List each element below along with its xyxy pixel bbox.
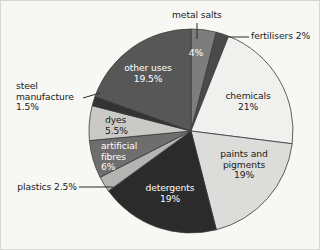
dyes-value-text: 5.5% (105, 126, 153, 137)
steel-line1-text: steel (16, 81, 92, 92)
label-metal-salts-value: 4% (184, 48, 208, 59)
label-metal-salts-name: metal salts (172, 10, 222, 21)
metal-salts-value-text: 4% (184, 48, 208, 59)
dyes-name-text: dyes (105, 115, 153, 126)
artificial-fibres-value-text: 6% (101, 162, 163, 173)
other-uses-name-text: other uses (109, 63, 187, 74)
label-plastics: plastics 2.5% (7, 182, 77, 193)
plastics-text: plastics 2.5% (7, 182, 77, 193)
label-other-uses: other uses 19.5% (109, 63, 187, 84)
other-uses-value-text: 19.5% (109, 74, 187, 85)
artificial-fibres-line1-text: artificial (101, 141, 163, 152)
detergents-value-text: 19% (134, 194, 206, 205)
label-paints-and-pigments: paints and pigments 19% (207, 149, 281, 181)
pie-chart-figure: metal salts 4% fertilisers 2% chemicals … (0, 0, 320, 250)
chemicals-name-text: chemicals (214, 91, 282, 102)
paints-value-text: 19% (207, 170, 281, 181)
label-steel-manufacture: steel manufacture 1.5% (16, 81, 92, 113)
chemicals-value-text: 21% (214, 102, 282, 113)
paints-line1-text: paints and (207, 149, 281, 160)
steel-value-text: 1.5% (16, 102, 92, 113)
fertilisers-text: fertilisers 2% (251, 31, 310, 42)
label-artificial-fibres: artificial fibres 6% (101, 141, 163, 173)
label-dyes: dyes 5.5% (105, 115, 153, 136)
label-detergents: detergents 19% (134, 183, 206, 204)
metal-salts-text: metal salts (172, 10, 222, 21)
label-chemicals: chemicals 21% (214, 91, 282, 112)
detergents-name-text: detergents (134, 183, 206, 194)
label-fertilisers: fertilisers 2% (251, 31, 310, 42)
